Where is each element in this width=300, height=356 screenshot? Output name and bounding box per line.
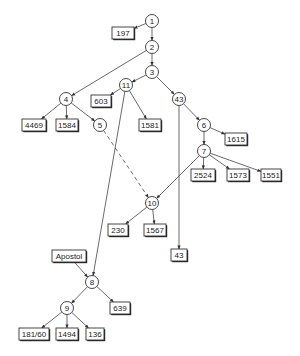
- circle-node-7: 7: [198, 145, 211, 158]
- edge-6-to-b1615: [210, 128, 225, 135]
- node-label: 3: [150, 68, 155, 77]
- node-label: 11: [122, 81, 131, 90]
- edge-4-to-b4469: [41, 103, 61, 119]
- node-label: 7: [202, 147, 207, 156]
- node-label: 43: [175, 95, 184, 104]
- box-node-639: 639: [110, 302, 131, 315]
- box-label: 197: [116, 29, 130, 38]
- circle-node-9: 9: [61, 302, 74, 315]
- edge-8-to-9: [72, 287, 88, 304]
- node-label: 6: [202, 121, 207, 130]
- edge-9-to-b136: [72, 312, 89, 328]
- box-node-1615: 1615: [225, 133, 248, 146]
- edge-10-to-b230: [126, 207, 147, 224]
- edge-4-to-b1584: [66, 105, 67, 119]
- box-label: 181/60: [22, 330, 47, 339]
- box-label: 1494: [58, 330, 76, 339]
- circle-node-3: 3: [146, 66, 159, 79]
- node-label: 9: [65, 304, 70, 313]
- circle-node-5: 5: [94, 119, 107, 132]
- box-label: 1615: [227, 135, 245, 144]
- edge-3-to-11: [132, 75, 146, 82]
- edge-5-to-10: [104, 130, 149, 197]
- circle-node-43: 43: [173, 93, 186, 106]
- box-node-136: 136: [86, 328, 105, 341]
- box-label: 1581: [141, 121, 159, 130]
- box-node-2524: 2524: [191, 169, 216, 182]
- circle-node-11: 11: [120, 79, 133, 92]
- edge-10-to-b1567: [153, 209, 155, 224]
- node-label: 8: [90, 278, 95, 287]
- box-node-603: 603: [91, 95, 112, 108]
- edge-8-to-b639: [97, 286, 114, 302]
- box-label: 1573: [229, 171, 247, 180]
- box-label: 2524: [194, 171, 212, 180]
- circle-node-1: 1: [146, 15, 159, 28]
- edge-9-to-b18160: [42, 312, 62, 328]
- nodes-layer: 1231143456710891976034469158415811615252…: [19, 15, 282, 342]
- box-label: 230: [111, 226, 125, 235]
- box-node-1567: 1567: [144, 224, 167, 237]
- box-label: Apostol: [56, 252, 83, 261]
- circle-node-10: 10: [146, 197, 159, 210]
- box-label: 1567: [146, 226, 164, 235]
- box-node-4469: 4469: [22, 119, 47, 132]
- box-label: 639: [113, 304, 127, 313]
- tree-diagram: 1231143456710891976034469158415811615252…: [0, 0, 300, 356]
- box-node-197: 197: [112, 27, 135, 40]
- box-label: 1584: [58, 121, 76, 130]
- box-label: 1551: [262, 171, 280, 180]
- edge-43-to-6: [184, 104, 200, 121]
- box-label: 136: [88, 330, 102, 339]
- circle-node-8: 8: [86, 276, 99, 289]
- node-label: 10: [148, 199, 157, 208]
- edge-3-to-43: [157, 77, 175, 95]
- edge-11-to-b1581: [129, 91, 146, 119]
- circle-node-2: 2: [146, 41, 159, 54]
- node-label: 2: [150, 43, 155, 52]
- circle-node-6: 6: [198, 119, 211, 132]
- node-label: 4: [64, 95, 69, 104]
- box-label: 603: [94, 97, 108, 106]
- edge-2-to-4: [72, 50, 147, 95]
- edge-11-to-b603: [110, 89, 120, 95]
- box-label: 4469: [25, 121, 43, 130]
- circle-node-4: 4: [60, 93, 73, 106]
- box-node-18160: 181/60: [19, 328, 50, 341]
- box-node-230: 230: [108, 224, 129, 237]
- box-node-1584: 1584: [56, 119, 79, 132]
- box-node-1573: 1573: [227, 169, 250, 182]
- edge-bApostol-to-8: [74, 262, 87, 277]
- node-label: 5: [98, 121, 103, 130]
- node-label: 1: [150, 17, 155, 26]
- box-node-Apostol: Apostol: [52, 250, 87, 263]
- edge-1-to-b197: [134, 23, 146, 28]
- box-label: 43: [175, 251, 184, 260]
- box-node-1551: 1551: [261, 169, 282, 182]
- box-node-43: 43: [171, 249, 188, 262]
- box-node-1494: 1494: [56, 328, 79, 341]
- box-node-1581: 1581: [139, 119, 162, 132]
